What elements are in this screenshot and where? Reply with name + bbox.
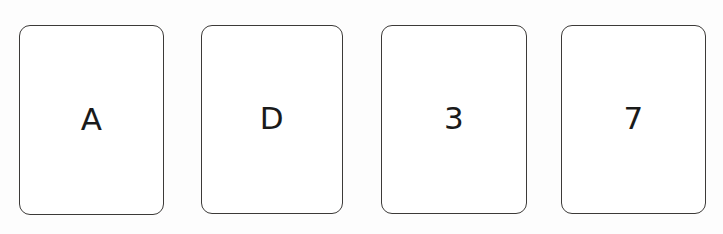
card-3-face: 3: [444, 103, 464, 134]
card-board: A D 3 7: [0, 0, 723, 234]
card-1-face: A: [81, 104, 103, 135]
card-3[interactable]: 3: [381, 25, 527, 214]
card-4-face: 7: [623, 103, 643, 134]
card-1[interactable]: A: [19, 25, 164, 215]
card-4[interactable]: 7: [561, 25, 706, 214]
card-2[interactable]: D: [201, 25, 343, 214]
card-2-face: D: [260, 103, 284, 134]
